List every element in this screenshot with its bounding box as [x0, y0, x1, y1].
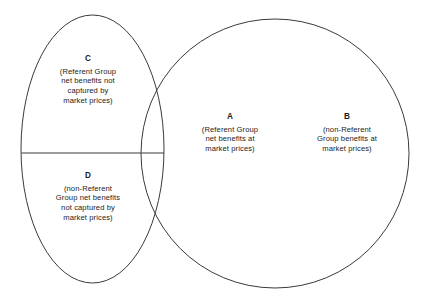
region-key-d: D	[34, 171, 142, 182]
region-label-a: A (Referent Group net benefits at market…	[178, 112, 282, 154]
region-key-b: B	[295, 112, 399, 123]
region-key-a: A	[178, 112, 282, 123]
venn-diagram: C (Referent Group net benefits not captu…	[0, 0, 431, 293]
region-description-c: (Referent Group net benefits not capture…	[34, 67, 142, 106]
region-label-b: B (non-Referent Group benefits at market…	[295, 112, 399, 154]
region-description-a: (Referent Group net benefits at market p…	[178, 125, 282, 154]
region-description-d: (non-Referent Group net benefits not cap…	[34, 184, 142, 223]
region-label-c: C (Referent Group net benefits not captu…	[34, 54, 142, 105]
region-key-c: C	[34, 54, 142, 65]
region-description-b: (non-Referent Group benefits at market p…	[295, 125, 399, 154]
region-label-d: D (non-Referent Group net benefits not c…	[34, 171, 142, 222]
